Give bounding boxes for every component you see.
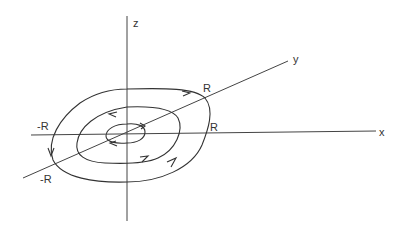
x-axis-label: x [379, 126, 385, 138]
outer-orbit-arrow-bottom [167, 158, 176, 167]
outer-orbit [51, 89, 210, 183]
z-axis-label: z [133, 17, 139, 29]
y-axis-label: y [293, 53, 299, 65]
radius-label-x-positive: R [210, 121, 218, 133]
middle-orbit-arrow-top [109, 112, 117, 117]
radius-label-y-negative: -R [40, 173, 52, 185]
x-axis [31, 131, 376, 135]
outer-orbit-arrow-top [182, 91, 190, 96]
radius-label-y-positive: R [203, 82, 211, 94]
orbit-diagram: z y x R R -R -R [0, 0, 405, 230]
radius-label-x-negative: -R [37, 120, 49, 132]
